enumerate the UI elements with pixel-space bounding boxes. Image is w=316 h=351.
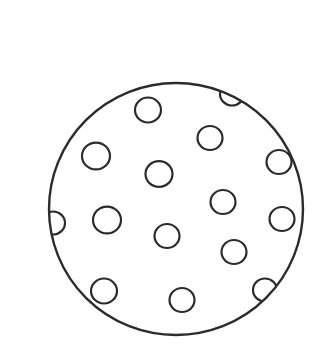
drawing-canvas bbox=[0, 0, 316, 351]
dot-circle bbox=[220, 82, 244, 105]
outer-circle bbox=[49, 83, 303, 335]
dot-circle bbox=[211, 190, 236, 214]
dot-circle bbox=[41, 211, 65, 234]
dot-circle bbox=[155, 224, 180, 248]
dots-group bbox=[41, 82, 295, 312]
dot-circle bbox=[146, 161, 173, 187]
dot-circle bbox=[82, 143, 110, 170]
polka-dot-circle-drawing bbox=[0, 0, 316, 351]
dot-circle bbox=[222, 240, 247, 264]
dot-circle bbox=[135, 98, 161, 123]
dot-circle bbox=[198, 126, 223, 150]
dot-circle bbox=[170, 288, 195, 312]
dot-circle bbox=[270, 207, 295, 231]
dot-circle bbox=[93, 207, 121, 234]
dot-circle bbox=[91, 279, 117, 304]
dot-circle bbox=[267, 150, 292, 174]
